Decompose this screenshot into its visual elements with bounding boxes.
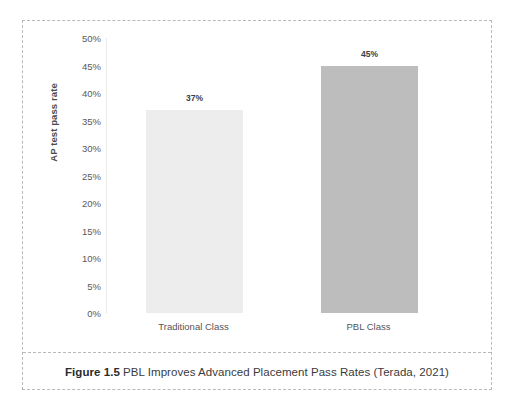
y-axis-tick-label: 20%	[63, 198, 101, 209]
figure-card: AP test pass rate 50%45%40%35%30%25%20%1…	[22, 20, 492, 390]
caption-figure-number: Figure 1.5	[65, 366, 120, 378]
x-axis-tick-label: Traditional Class	[106, 321, 281, 332]
x-axis-tick-labels: Traditional ClassPBL Class	[106, 321, 456, 341]
x-axis-tick-label: PBL Class	[281, 321, 456, 332]
bar-group: 45%	[282, 38, 457, 313]
y-axis-tick-label: 5%	[63, 280, 101, 291]
y-axis-tick-label: 45%	[63, 60, 101, 71]
bar-value-label: 45%	[282, 49, 457, 59]
y-axis-tick-label: 50%	[63, 33, 101, 44]
plot-area: 37%45%	[106, 38, 457, 313]
y-axis-tick-label: 25%	[63, 170, 101, 181]
y-axis-tick-label: 40%	[63, 88, 101, 99]
caption-text: Figure 1.5 PBL Improves Advanced Placeme…	[65, 366, 449, 378]
y-axis-tick-label: 35%	[63, 115, 101, 126]
y-axis-tick-label: 10%	[63, 253, 101, 264]
bar-value-label: 37%	[107, 93, 282, 103]
y-axis-tick-label: 15%	[63, 225, 101, 236]
caption-description: PBL Improves Advanced Placement Pass Rat…	[123, 366, 449, 378]
bar-group: 37%	[107, 38, 282, 313]
y-axis-tick-label: 30%	[63, 143, 101, 154]
chart-region: AP test pass rate 50%45%40%35%30%25%20%1…	[23, 21, 491, 353]
y-axis-tick-labels: 50%45%40%35%30%25%20%15%10%5%0%	[63, 38, 101, 313]
y-axis-tick-label: 0%	[63, 308, 101, 319]
bar	[146, 110, 243, 314]
y-axis-title: AP test pass rate	[48, 63, 59, 183]
bar	[321, 66, 418, 314]
figure-caption: Figure 1.5 PBL Improves Advanced Placeme…	[23, 353, 491, 390]
